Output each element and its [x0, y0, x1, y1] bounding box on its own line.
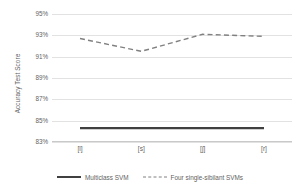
- y-axis-tick-label: 85%: [24, 118, 48, 124]
- y-axis-tick-label: 91%: [24, 54, 48, 60]
- x-axis-tick-label: [ʃ]: [183, 144, 223, 154]
- x-axis-tick-label: [r]: [244, 144, 284, 154]
- legend-item-label: Four single-sibilant SVMs: [171, 174, 243, 181]
- y-axis-tick-label: 87%: [24, 96, 48, 102]
- x-axis-tick-label: [s]: [121, 144, 161, 154]
- y-axis-title: Accuracy Test Score: [12, 40, 24, 126]
- x-axis-tick-labels: [l][s][ʃ][r]: [52, 144, 292, 158]
- legend-item[interactable]: Four single-sibilant SVMs: [143, 174, 243, 181]
- legend-item[interactable]: Multiclass SVM: [57, 174, 129, 181]
- gridline: [52, 142, 292, 143]
- y-axis-tick-label: 89%: [24, 75, 48, 81]
- y-axis-tick-label: 95%: [24, 11, 48, 17]
- accuracy-test-score-line-chart: Accuracy Test Score 95%93%91%89%87%85%83…: [0, 0, 300, 192]
- plot-area: [52, 14, 292, 142]
- y-axis-tick-label: 93%: [24, 32, 48, 38]
- legend-swatch-icon: [143, 174, 167, 181]
- series-line: [80, 34, 264, 51]
- legend-swatch-icon: [57, 174, 81, 181]
- series-container: [52, 14, 292, 142]
- y-axis-tick-label: 83%: [24, 139, 48, 145]
- y-axis-title-label: Accuracy Test Score: [15, 53, 22, 113]
- x-axis-tick-label: [l]: [60, 144, 100, 154]
- chart-legend: Multiclass SVMFour single-sibilant SVMs: [0, 170, 300, 184]
- legend-item-label: Multiclass SVM: [85, 174, 129, 181]
- y-axis-tick-labels: 95%93%91%89%87%85%83%: [24, 14, 48, 142]
